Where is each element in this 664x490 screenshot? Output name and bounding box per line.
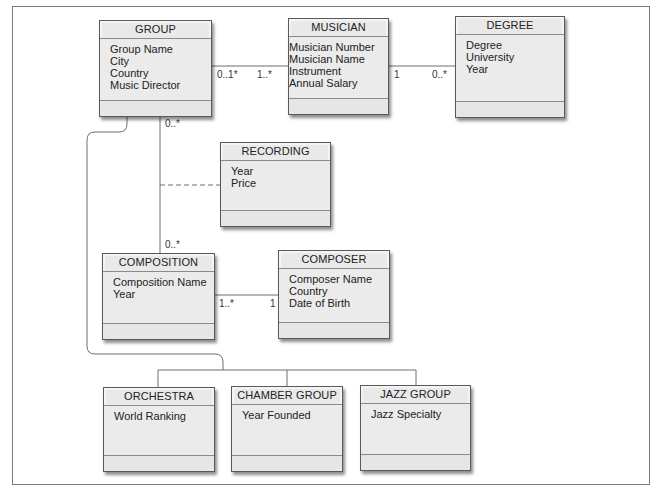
class-attributes: Musician Number Musician Name Instrument… (289, 37, 388, 99)
attribute: Musician Number (289, 41, 380, 53)
class-title: CHAMBER GROUP (232, 387, 342, 405)
multiplicity-composition-composer-right: 1 (270, 298, 276, 309)
class-title: DEGREE (456, 17, 564, 35)
multiplicity-musician-degree-left: 1 (394, 69, 400, 80)
attribute: Group Name (110, 43, 203, 55)
attribute: City (110, 55, 203, 67)
multiplicity-group-composition-bottom: 0..* (165, 239, 180, 250)
class-attributes: Year Founded (232, 405, 342, 456)
attribute: Year (113, 288, 206, 300)
class-musician[interactable]: MUSICIAN Musician Number Musician Name I… (288, 18, 389, 115)
class-jazz-group[interactable]: JAZZ GROUP Jazz Specialty (360, 385, 471, 471)
class-attributes: Composer Name Country Date of Birth (279, 269, 389, 323)
class-attributes: Group Name City Country Music Director (100, 39, 211, 101)
attribute: Year (466, 63, 556, 75)
class-operations (289, 99, 388, 114)
attribute: Composer Name (289, 273, 381, 285)
attribute: Jazz Specialty (371, 408, 462, 420)
attribute: World Ranking (114, 410, 206, 422)
attribute: Degree (466, 39, 556, 51)
attribute: Year (231, 165, 322, 177)
class-attributes: Composition Name Year (103, 272, 214, 324)
attribute: Country (110, 67, 203, 79)
class-title: COMPOSER (279, 251, 389, 269)
class-attributes: Degree University Year (456, 35, 564, 102)
class-operations (103, 324, 214, 339)
attribute: Music Director (110, 79, 203, 91)
multiplicity-group-composition-top: 0..* (165, 118, 180, 129)
class-operations (279, 323, 389, 338)
class-title: MUSICIAN (289, 19, 388, 37)
class-operations (104, 456, 214, 471)
attribute: Instrument (289, 65, 380, 77)
class-attributes: World Ranking (104, 406, 214, 456)
attribute: Annual Salary (289, 77, 380, 89)
attribute: Country (289, 285, 381, 297)
class-orchestra[interactable]: ORCHESTRA World Ranking (103, 387, 215, 472)
attribute: Year Founded (242, 409, 334, 421)
class-degree[interactable]: DEGREE Degree University Year (455, 16, 565, 118)
class-composer[interactable]: COMPOSER Composer Name Country Date of B… (278, 250, 390, 339)
attribute: Musician Name (289, 53, 380, 65)
class-chamber-group[interactable]: CHAMBER GROUP Year Founded (231, 386, 343, 472)
class-group[interactable]: GROUP Group Name City Country Music Dire… (99, 20, 212, 117)
attribute: Composition Name (113, 276, 206, 288)
class-operations (100, 101, 211, 116)
multiplicity-composition-composer-left: 1..* (219, 298, 234, 309)
class-attributes: Year Price (221, 161, 330, 211)
class-recording[interactable]: RECORDING Year Price (220, 142, 331, 227)
class-operations (232, 456, 342, 471)
multiplicity-group-musician-right: 1..* (257, 69, 272, 80)
class-title: RECORDING (221, 143, 330, 161)
multiplicity-group-musician-left: 0..1* (217, 69, 238, 80)
class-operations (221, 211, 330, 226)
class-title: COMPOSITION (103, 254, 214, 272)
class-attributes: Jazz Specialty (361, 404, 470, 455)
multiplicity-musician-degree-right: 0..* (432, 69, 447, 80)
class-composition[interactable]: COMPOSITION Composition Name Year (102, 253, 215, 340)
class-title: GROUP (100, 21, 211, 39)
class-title: ORCHESTRA (104, 388, 214, 406)
class-title: JAZZ GROUP (361, 386, 470, 404)
attribute: University (466, 51, 556, 63)
attribute: Date of Birth (289, 297, 381, 309)
class-operations (361, 455, 470, 470)
class-operations (456, 102, 564, 117)
attribute: Price (231, 177, 322, 189)
